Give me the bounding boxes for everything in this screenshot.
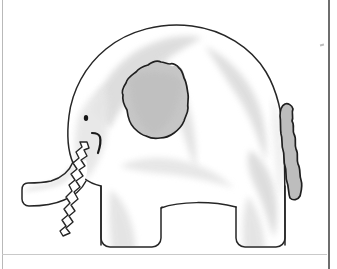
page-left-rule	[2, 0, 3, 269]
eye-icon	[84, 115, 88, 121]
page-right-rule	[328, 0, 330, 269]
page-bottom-rule	[2, 254, 327, 255]
elephant-illustration	[0, 0, 337, 269]
page-canvas: Elephant Illustration	[0, 0, 337, 269]
